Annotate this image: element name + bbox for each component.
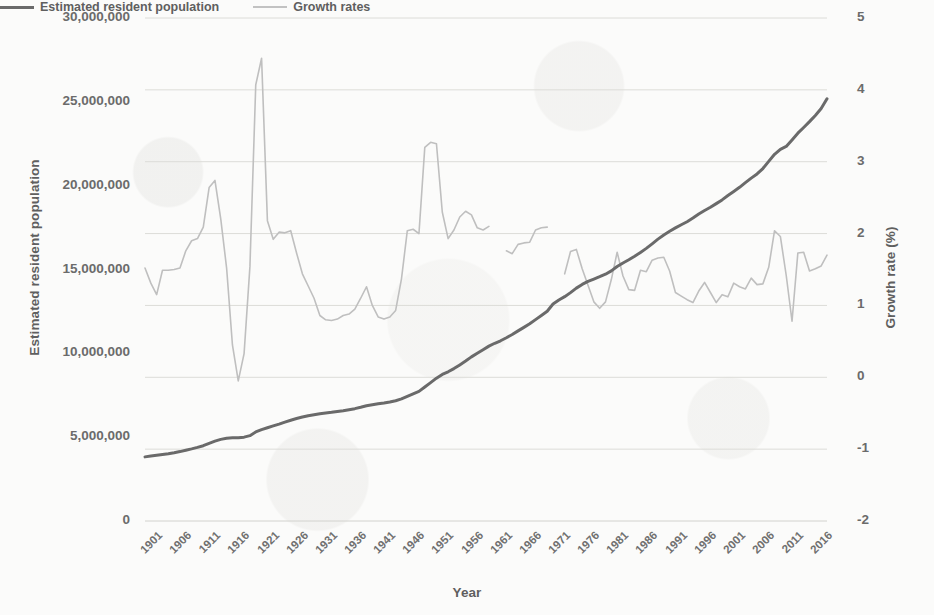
y-axis-left-tick: 20,000,000 <box>10 177 130 192</box>
chart-plot-area <box>0 0 934 615</box>
y-axis-left-tick: 10,000,000 <box>10 344 130 359</box>
legend-item[interactable]: Estimated resident population <box>0 0 219 14</box>
y-axis-right-tick: -1 <box>857 440 897 455</box>
legend-label: Growth rates <box>293 0 370 14</box>
legend-swatch-population <box>0 6 34 9</box>
legend-item[interactable]: Growth rates <box>253 0 370 14</box>
legend-swatch-growth <box>253 6 287 8</box>
y-axis-right-tick: 3 <box>857 153 897 168</box>
y-axis-right-title: Growth rate (%) <box>883 188 898 368</box>
y-axis-left-tick: 15,000,000 <box>10 261 130 276</box>
y-axis-right-tick: 1 <box>857 296 897 311</box>
y-axis-right-tick: 0 <box>857 368 897 383</box>
y-axis-right-tick: 2 <box>857 225 897 240</box>
y-axis-left-tick: 25,000,000 <box>10 93 130 108</box>
y-axis-left-tick: 0 <box>10 512 130 527</box>
population-growth-chart: Estimated resident population Growth rat… <box>0 0 934 615</box>
y-axis-right-tick: 4 <box>857 81 897 96</box>
x-axis-title: Year <box>0 585 934 600</box>
y-axis-right-tick: 5 <box>857 9 897 24</box>
legend-label: Estimated resident population <box>40 0 219 14</box>
y-axis-left-tick: 5,000,000 <box>10 428 130 443</box>
y-axis-right-tick: -2 <box>857 512 897 527</box>
